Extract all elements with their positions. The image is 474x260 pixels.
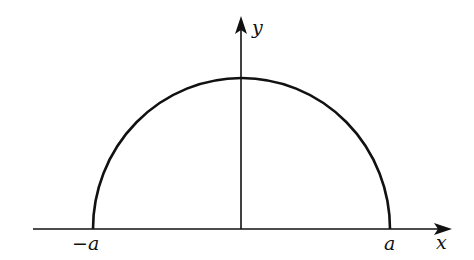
semicircle-diagram: y x −a a bbox=[0, 0, 474, 260]
x-axis-label: x bbox=[436, 231, 447, 253]
y-axis-label: y bbox=[251, 16, 263, 38]
positive-a-label: a bbox=[384, 232, 395, 254]
negative-a-label: −a bbox=[72, 232, 99, 254]
